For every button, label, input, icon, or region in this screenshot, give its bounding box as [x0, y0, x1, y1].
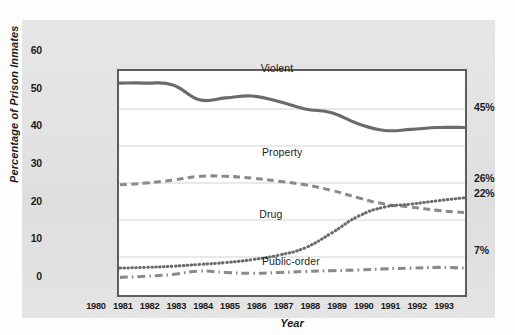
end-value-label: 26%	[474, 172, 494, 184]
y-tick-label: 0	[12, 270, 42, 282]
series-line-public-order	[120, 267, 464, 277]
series-annotation: Property	[262, 146, 302, 158]
end-value-label: 7%	[474, 244, 489, 256]
end-value-label: 45%	[474, 101, 494, 113]
x-tick-label: 1993	[427, 301, 461, 311]
y-tick-label: 40	[12, 119, 42, 131]
y-tick-label: 50	[12, 82, 42, 94]
end-value-label: 22%	[474, 187, 494, 199]
y-tick-label: 20	[12, 195, 42, 207]
chart-panel: Percentage of Prison Inmates 01020304050…	[22, 20, 495, 318]
y-tick-label: 30	[12, 157, 42, 169]
series-line-violent	[120, 83, 464, 131]
series-line-property	[120, 176, 464, 213]
y-tick-label: 10	[12, 232, 42, 244]
x-axis-label: Year	[280, 317, 303, 329]
chart-root: Percentage of Prison Inmates 01020304050…	[0, 0, 515, 335]
series-annotation: Public-order	[262, 255, 320, 267]
y-tick-label: 60	[12, 44, 42, 56]
series-annotation: Violent	[261, 62, 294, 74]
series-annotation: Drug	[259, 208, 282, 220]
